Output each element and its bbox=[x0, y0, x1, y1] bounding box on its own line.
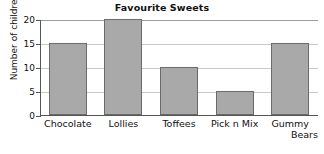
bar-gummy-bears bbox=[271, 43, 309, 115]
x-tick-label-lollies: Lollies bbox=[96, 118, 152, 129]
bar-chocolate bbox=[49, 43, 87, 115]
bar-chart: Favourite Sweets Number of children 0 5 … bbox=[0, 0, 324, 154]
x-axis-tick-labels: ChocolateLolliesToffeesPick n MixGummyBe… bbox=[40, 118, 318, 152]
x-tick-label-toffees: Toffees bbox=[151, 118, 207, 129]
chart-title: Favourite Sweets bbox=[0, 2, 324, 13]
x-tick-label-chocolate: Chocolate bbox=[40, 118, 96, 129]
y-tick-label-20: 20 bbox=[17, 16, 35, 25]
y-tick-label-0: 0 bbox=[17, 112, 35, 121]
y-tick-label-5: 5 bbox=[17, 88, 35, 97]
bar-pick-n-mix bbox=[216, 91, 254, 115]
x-tick-label-pick-n-mix: Pick n Mix bbox=[207, 118, 263, 129]
bar-lollies bbox=[104, 19, 142, 115]
bar-series bbox=[40, 20, 318, 116]
bar-toffees bbox=[160, 67, 198, 115]
x-tick-label-gummy-bears: GummyBears bbox=[262, 118, 318, 140]
y-tick-label-15: 15 bbox=[17, 40, 35, 49]
plot-area bbox=[40, 20, 318, 116]
y-axis-tick-labels: 0 5 10 15 20 bbox=[17, 20, 35, 116]
y-tick-label-10: 10 bbox=[17, 64, 35, 73]
